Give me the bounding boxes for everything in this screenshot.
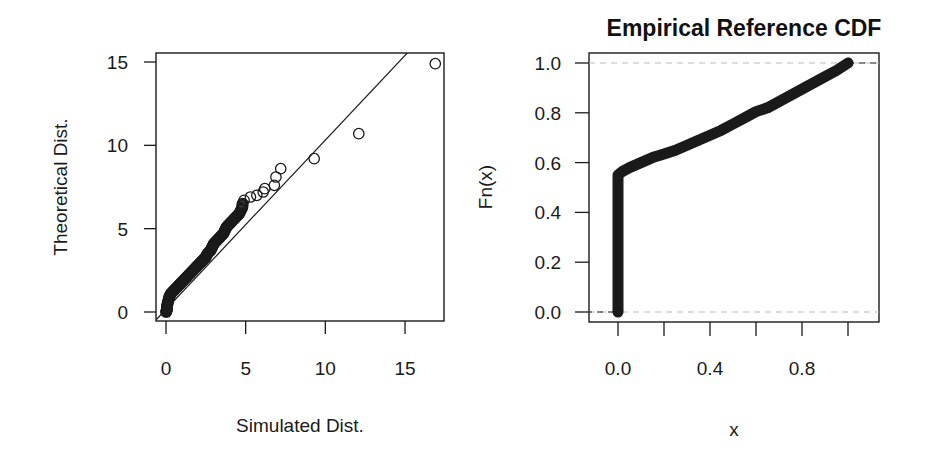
y-tick-label: 0.6 [535, 153, 561, 174]
y-tick-label: 0.8 [535, 103, 561, 124]
qq-plot-panel: 051015 051015 Simulated Dist. Theoretica… [50, 49, 444, 436]
ecdf-plot-frame [589, 53, 879, 322]
x-tick-label: 0.4 [697, 358, 724, 379]
ecdf-plot-panel: Empirical Reference CDF 0.00.20.40.60.81… [475, 15, 893, 440]
y-tick-label: 0.0 [535, 302, 561, 323]
qq-points [161, 58, 441, 317]
qq-point [245, 192, 255, 202]
y-tick-label: 1.0 [535, 53, 561, 74]
qq-point [309, 153, 319, 163]
qq-plot-frame [156, 53, 444, 321]
qq-point [276, 163, 286, 173]
figure: 051015 051015 Simulated Dist. Theoretica… [0, 0, 932, 458]
qq-plot-area [156, 49, 440, 320]
qq-point [260, 183, 270, 193]
ecdf-x-axis: 0.00.40.8 [605, 322, 848, 379]
ecdf-plot-title: Empirical Reference CDF [607, 15, 882, 41]
y-tick-label: 0.2 [535, 252, 561, 273]
x-tick-label: 5 [240, 358, 251, 379]
x-tick-label: 0.0 [605, 358, 631, 379]
ecdf-curve [618, 63, 848, 312]
qq-y-axis-title: Theoretical Dist. [50, 118, 71, 255]
x-tick-label: 0 [161, 358, 172, 379]
qq-point-dense [210, 240, 219, 249]
y-tick-label: 0.4 [535, 202, 562, 223]
qq-reference-line [156, 49, 411, 320]
x-tick-label: 0.8 [789, 358, 815, 379]
y-tick-label: 10 [107, 135, 128, 156]
ecdf-x-axis-title: x [729, 419, 739, 440]
qq-point [354, 128, 364, 138]
x-tick-label: 15 [394, 358, 415, 379]
qq-y-axis: 051015 [107, 52, 156, 323]
y-tick-label: 5 [117, 219, 128, 240]
y-tick-label: 15 [107, 52, 128, 73]
x-tick-label: 10 [315, 358, 336, 379]
qq-point [430, 58, 440, 68]
y-tick-label: 0 [117, 302, 128, 323]
qq-x-axis: 051015 [161, 321, 416, 379]
qq-x-axis-title: Simulated Dist. [236, 415, 364, 436]
ecdf-line [618, 63, 848, 312]
ecdf-y-axis: 0.00.20.40.60.81.0 [535, 53, 589, 323]
ecdf-y-axis-title: Fn(x) [475, 165, 496, 209]
